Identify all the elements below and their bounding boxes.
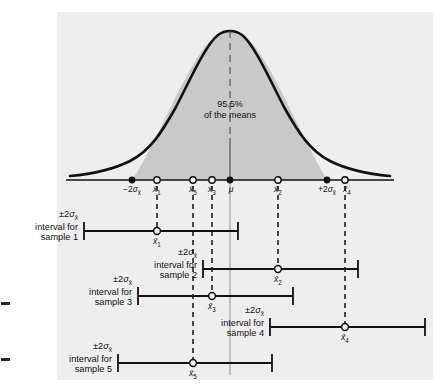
tick-sub: x̄ — [138, 189, 141, 196]
axis-marker-xbar5 — [190, 177, 196, 183]
axis-marker-xbar1 — [154, 177, 160, 183]
axis-marker-plus-2-sigma — [324, 177, 331, 184]
tick-label-xbar1: x̄1 — [153, 184, 161, 196]
interval-label-sample-4: ±2σx̄ interval for sample 4 — [221, 305, 264, 339]
interval-label-line3: sample 1 — [41, 232, 78, 242]
interval-label-sample-3: ±2σx̄ interval for sample 3 — [89, 274, 132, 308]
tick-sub: 4 — [347, 189, 351, 196]
axis-marker-minus-2-sigma — [129, 177, 136, 184]
tick-label-minus-2-sigma: −2σx̄ — [123, 184, 141, 196]
tick-sub: 5 — [193, 189, 197, 196]
axis-marker-mu — [227, 177, 234, 184]
interval-label-line2: interval for — [221, 318, 264, 328]
confidence-interval-figure: 95.5% of the means −2σx̄ x̄1 x̄5 x̄3 μ x… — [0, 0, 447, 392]
interval-label-line3: sample 5 — [75, 364, 112, 374]
axis-marker-xbar2 — [275, 177, 281, 183]
interval-label-pm: ±2σx̄ — [89, 274, 132, 287]
tick-sub: 3 — [212, 189, 216, 196]
interval-label-line3: sample 3 — [95, 297, 132, 307]
interval-mean-label-sample-4: x̄4 — [341, 332, 349, 344]
interval-label-sample-5: ±2σx̄ interval for sample 5 — [69, 341, 112, 375]
interval-label-sample-2: ±2σx̄ interval for sample 2 — [154, 247, 197, 281]
interval-label-pm: ±2σx̄ — [221, 305, 264, 318]
tick-label-xbar3: x̄3 — [208, 184, 216, 196]
interval-label-sample-1: ±2σx̄ interval for sample 1 — [35, 209, 78, 243]
tick-sym: μ — [229, 184, 234, 194]
tick-label-xbar4: x̄4 — [343, 184, 351, 196]
tick-label-xbar2: x̄2 — [274, 184, 282, 196]
interval-label-line3: sample 2 — [160, 270, 197, 280]
axis-marker-xbar3 — [209, 177, 215, 183]
interval-label-line2: interval for — [154, 260, 197, 270]
tick-sub: 2 — [278, 189, 282, 196]
tick-pre: +2 — [318, 184, 328, 194]
tick-label-mu: μ — [229, 184, 234, 194]
interval-mean-label-sample-2: x̄2 — [274, 274, 282, 286]
interval-mean-label-sample-3: x̄3 — [208, 301, 216, 313]
interval-mean-label-sample-5: x̄5 — [189, 368, 197, 380]
interval-bar-sample-1 — [84, 222, 238, 240]
interval-label-pm: ±2σx̄ — [35, 209, 78, 222]
percent-callout-line1: 95.5% — [217, 99, 243, 109]
tick-pre: −2 — [123, 184, 133, 194]
tick-sub: 1 — [157, 189, 161, 196]
percent-callout-line2: of the means — [204, 110, 256, 120]
interval-label-line2: interval for — [89, 287, 132, 297]
tick-label-plus-2-sigma: +2σx̄ — [318, 184, 336, 196]
interval-label-pm: ±2σx̄ — [154, 247, 197, 260]
tick-label-xbar5: x̄5 — [189, 184, 197, 196]
interval-label-line3: sample 4 — [227, 328, 264, 338]
axis-marker-xbar4 — [342, 177, 348, 183]
interval-mean-label-sample-1: x̄1 — [153, 236, 161, 248]
interval-label-pm: ±2σx̄ — [69, 341, 112, 354]
interval-label-line2: interval for — [69, 354, 112, 364]
percent-callout: 95.5% of the means — [204, 99, 256, 120]
interval-label-line2: interval for — [35, 222, 78, 232]
tick-sub: x̄ — [333, 189, 336, 196]
